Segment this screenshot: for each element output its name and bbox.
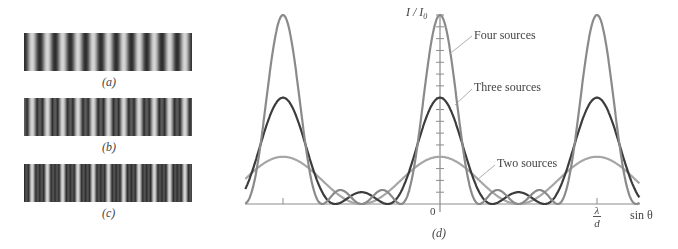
caption-d: (d) [432, 226, 446, 241]
leader-three-sources [455, 89, 472, 105]
origin-label: 0 [430, 205, 436, 217]
label-two-sources: Two sources [497, 156, 557, 171]
leader-two-sources [477, 165, 495, 180]
x-tick-label-lambda-over-d: λ d [593, 205, 601, 228]
label-three-sources: Three sources [474, 80, 541, 95]
curve-3-sources [245, 98, 639, 204]
label-four-sources: Four sources [474, 28, 536, 43]
y-axis-label: I / I0 [406, 5, 427, 21]
axes [245, 14, 640, 212]
intensity-graph [0, 0, 678, 249]
x-axis-label: sin θ [630, 208, 653, 223]
leader-four-sources [452, 36, 472, 52]
